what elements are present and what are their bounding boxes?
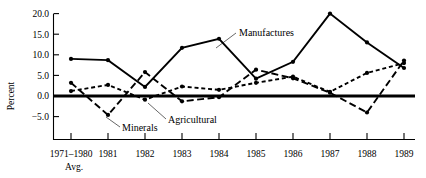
x-tick-label: 1985 — [247, 149, 266, 159]
y-axis-title: Percent — [6, 81, 16, 110]
y-tick-label: 0.0 — [37, 91, 49, 101]
data-point — [217, 88, 221, 92]
x-tick-label: 1982 — [136, 149, 155, 159]
data-point — [365, 71, 369, 75]
data-point — [254, 81, 258, 85]
y-tick-label: 20.0 — [32, 9, 49, 19]
data-point — [180, 84, 184, 88]
y-tick-marks — [54, 14, 60, 117]
x-tick-label: 1989 — [395, 149, 414, 159]
data-point — [69, 57, 73, 61]
data-point — [291, 60, 295, 64]
series-manufactures — [69, 12, 406, 90]
series-annotation-manufactures: Manufactures — [239, 27, 294, 38]
data-point — [217, 95, 221, 99]
annotation-leader-line — [148, 103, 166, 119]
data-point — [106, 83, 110, 87]
y-tick-label: −5.0 — [32, 112, 49, 122]
x-tick-label: 1981 — [99, 149, 118, 159]
series-annotation-minerals: Minerals — [122, 122, 158, 133]
data-point — [365, 40, 369, 44]
x-tick-label: 1971–1980 — [50, 149, 93, 159]
data-point — [180, 46, 184, 50]
data-point — [402, 61, 406, 65]
chart-container: −5.00.05.010.015.020.0 1971–198019811982… — [0, 0, 426, 178]
series-minerals — [69, 58, 406, 117]
x-tick-labels: 1971–19801981198219831984198519861987198… — [50, 149, 414, 172]
x-tick-label: 1988 — [358, 149, 377, 159]
x-tick-label: 1984 — [210, 149, 229, 159]
data-point — [106, 113, 110, 117]
data-point — [143, 98, 147, 102]
x-tick-label: 1987 — [321, 149, 340, 159]
data-point — [143, 70, 147, 74]
data-point — [402, 66, 406, 70]
data-point — [365, 110, 369, 114]
x-tick-sublabel-avg: Avg. — [65, 162, 83, 172]
data-point — [69, 81, 73, 85]
y-tick-label: 15.0 — [32, 30, 49, 40]
data-point — [69, 89, 73, 93]
y-tick-label: 10.0 — [32, 50, 49, 60]
series-annotation-agricultural: Agricultural — [168, 114, 217, 125]
data-point — [328, 90, 332, 94]
data-point — [254, 68, 258, 72]
data-point — [217, 37, 221, 41]
data-point — [106, 58, 110, 62]
line-chart: −5.00.05.010.015.020.0 1971–198019811982… — [0, 0, 426, 178]
data-point — [254, 77, 258, 81]
x-tick-label: 1986 — [284, 149, 303, 159]
series-line — [71, 14, 404, 87]
annotation-leader-line — [106, 117, 120, 127]
data-point — [328, 12, 332, 16]
data-point — [180, 99, 184, 103]
series-layer — [69, 12, 406, 118]
y-tick-label: 5.0 — [37, 71, 49, 81]
data-point — [143, 85, 147, 89]
data-point — [291, 75, 295, 79]
y-tick-labels: −5.00.05.010.015.020.0 — [32, 9, 49, 122]
x-tick-marks — [71, 133, 404, 140]
x-tick-label: 1983 — [173, 149, 192, 159]
